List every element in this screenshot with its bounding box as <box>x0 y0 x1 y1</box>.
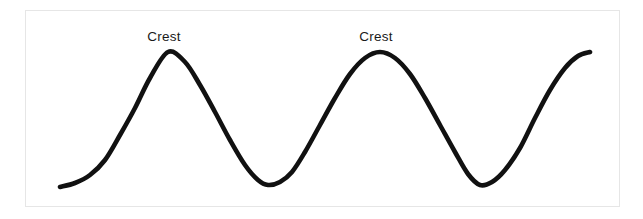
sine-wave-path <box>60 51 590 187</box>
crest-label-1: Crest <box>147 30 180 44</box>
wave-curve-canvas <box>0 0 643 219</box>
wave-figure: Crest Crest <box>0 0 643 219</box>
crest-label-2: Crest <box>359 30 392 44</box>
